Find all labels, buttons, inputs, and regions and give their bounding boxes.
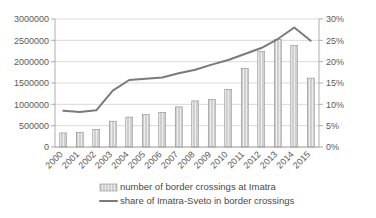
left-axis-tick-label: 1500000 [14, 78, 49, 88]
right-axis-tick-label: 5% [326, 121, 339, 131]
category-label: 2010 [208, 149, 229, 170]
right-axis-tick-label: 20% [326, 57, 344, 67]
category-label: 2007 [159, 149, 180, 170]
bar [93, 129, 100, 147]
bar [274, 39, 281, 147]
right-axis-tick-label: 10% [326, 100, 344, 110]
bar [225, 90, 232, 147]
bar [142, 114, 149, 147]
category-label: 2006 [142, 149, 163, 170]
category-label: 2014 [274, 149, 295, 170]
bar [109, 121, 116, 147]
bar [175, 107, 182, 147]
category-label: 2005 [126, 149, 147, 170]
bar [291, 46, 298, 147]
bar [208, 100, 215, 147]
right-axis-tick-label: 15% [326, 78, 344, 88]
right-axis-ticks: 0%5%10%15%20%25%30% [319, 14, 344, 152]
chart-legend: number of border crossings at Imatrashar… [100, 181, 294, 206]
bar [159, 112, 166, 147]
legend-bar-swatch [100, 184, 117, 191]
bar [258, 51, 265, 147]
category-axis-labels: 2000200120022003200420052006200720082009… [43, 149, 312, 170]
right-axis-tick-label: 30% [326, 14, 344, 24]
category-label: 2004 [109, 149, 130, 170]
category-label: 2015 [291, 149, 312, 170]
bar-series [60, 39, 314, 147]
left-axis-tick-label: 1000000 [14, 100, 49, 110]
left-axis-tick-label: 2500000 [14, 36, 49, 46]
category-label: 2003 [93, 149, 114, 170]
category-label: 2002 [76, 149, 97, 170]
legend-label: number of border crossings at Imatra [120, 181, 276, 192]
legend-label: share of Imatra-Sveto in border crossing… [120, 195, 294, 206]
bar [60, 133, 67, 147]
right-axis-tick-label: 25% [326, 36, 344, 46]
left-axis-tick-label: 2000000 [14, 57, 49, 67]
left-axis-ticks: 0500000100000015000002000000250000030000… [14, 14, 55, 152]
category-label: 2001 [60, 149, 81, 170]
category-label: 2008 [175, 149, 196, 170]
category-label: 2013 [258, 149, 279, 170]
category-label: 2000 [43, 149, 64, 170]
left-axis-tick-label: 0 [44, 142, 49, 152]
right-axis-tick-label: 0% [326, 142, 339, 152]
bar [126, 117, 133, 147]
bar [192, 101, 199, 147]
bar [76, 132, 83, 147]
bar [307, 78, 314, 147]
category-label: 2012 [241, 149, 262, 170]
left-axis-tick-label: 3000000 [14, 14, 49, 24]
bar [241, 68, 248, 147]
category-label: 2009 [192, 149, 213, 170]
chart-canvas: 0500000100000015000002000000250000030000… [0, 0, 376, 218]
chart-container: 0500000100000015000002000000250000030000… [0, 0, 376, 218]
left-axis-tick-label: 500000 [19, 121, 49, 131]
category-label: 2011 [225, 149, 246, 170]
